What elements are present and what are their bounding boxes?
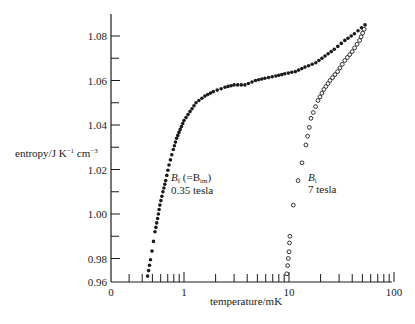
y-tick-label: 1.02 [88, 164, 107, 176]
data-point-open [336, 70, 340, 74]
x-axis-title: temperature/mK [210, 295, 282, 307]
data-point-filled [290, 71, 294, 75]
annotation-bf-field: 0.35 tesla [171, 184, 213, 196]
data-point-filled [167, 163, 171, 167]
annotation-bf: Bf (=Bim) [171, 171, 211, 185]
data-point-filled [270, 75, 274, 79]
data-point-filled [260, 77, 264, 81]
data-point-filled [148, 263, 152, 267]
data-point-open [288, 234, 292, 238]
data-point-filled [219, 87, 223, 91]
data-point-open [353, 46, 357, 50]
data-point-open [304, 143, 308, 147]
data-point-filled [157, 212, 161, 216]
data-point-filled [356, 29, 360, 33]
data-point-filled [303, 65, 307, 69]
data-point-open [359, 35, 363, 39]
data-point-filled [146, 274, 150, 278]
data-point-filled [323, 54, 327, 58]
x-tick-label: 1 [181, 286, 187, 298]
data-point-filled [149, 258, 153, 262]
data-point-open [362, 27, 366, 31]
data-point-open [355, 42, 359, 46]
data-point-open [286, 257, 290, 261]
data-point-filled [163, 183, 167, 187]
data-point-filled [267, 76, 271, 80]
data-point-filled [263, 77, 267, 81]
data-point-open [316, 99, 320, 103]
data-point-filled [310, 62, 314, 66]
data-point-filled [240, 83, 244, 87]
data-point-filled [353, 32, 357, 36]
data-point-filled [320, 56, 324, 60]
data-point-filled [250, 80, 254, 84]
data-point-filled [155, 221, 159, 225]
data-point-filled [215, 88, 219, 92]
data-point-open [288, 241, 292, 245]
data-point-open [318, 95, 322, 99]
data-point-open [320, 91, 324, 95]
data-point-filled [186, 113, 190, 117]
data-point-filled [164, 179, 168, 183]
data-point-filled [349, 34, 353, 38]
data-point-filled [223, 85, 227, 89]
data-point-filled [194, 101, 198, 105]
data-point-filled [300, 67, 304, 71]
data-point-filled [147, 269, 151, 273]
data-point-filled [247, 82, 251, 86]
entropy-temperature-chart: 0.960.981.001.021.041.061.08 0110100 ent… [0, 0, 415, 324]
data-point-open [350, 50, 354, 54]
y-tick-label: 1.06 [88, 75, 108, 87]
data-point-open [287, 250, 291, 254]
y-tick-label: 0.96 [88, 276, 108, 288]
series-bi-7-tesla [285, 27, 366, 275]
data-point-open [307, 126, 311, 130]
data-point-filled [297, 68, 301, 72]
x-tick-label: 100 [386, 286, 403, 298]
data-point-filled [212, 90, 216, 94]
data-point-filled [287, 71, 291, 75]
data-point-filled [152, 240, 156, 244]
data-point-filled [333, 48, 337, 52]
data-point-filled [150, 249, 154, 253]
data-point-filled [173, 144, 177, 148]
data-point-filled [340, 42, 344, 46]
data-point-open [314, 105, 318, 109]
data-point-filled [154, 226, 158, 230]
data-point-filled [162, 186, 166, 190]
data-point-filled [157, 208, 161, 212]
data-point-filled [170, 153, 174, 157]
data-point-filled [257, 78, 261, 82]
data-point-open [311, 111, 315, 115]
data-point-filled [326, 52, 330, 56]
data-point-open [300, 161, 304, 165]
data-point-filled [160, 194, 164, 198]
data-point-filled [277, 74, 281, 78]
data-point-open [306, 134, 310, 138]
data-point-filled [254, 79, 258, 83]
data-point-filled [346, 36, 350, 40]
data-point-filled [197, 99, 201, 103]
data-point-filled [200, 97, 204, 101]
data-point-open [309, 116, 313, 120]
axes: 0.960.981.001.021.041.061.08 0110100 [88, 14, 403, 298]
data-point-open [340, 62, 344, 66]
y-axis-title: entropy/J K−1 cm−3 [15, 147, 98, 159]
data-point-filled [294, 70, 298, 74]
data-point-filled [314, 61, 318, 65]
data-point-filled [174, 140, 178, 144]
data-point-open [296, 179, 300, 183]
data-point-filled [232, 83, 236, 87]
data-point-filled [329, 50, 333, 54]
y-tick-label: 0.98 [88, 253, 108, 265]
y-ticks: 0.960.981.001.021.041.061.08 [88, 30, 120, 288]
data-point-open [338, 66, 342, 70]
data-point-open [286, 264, 290, 268]
data-point-open [291, 203, 295, 207]
data-point-filled [243, 83, 247, 87]
data-point-filled [192, 104, 196, 108]
data-point-filled [161, 190, 165, 194]
annotation-bi-field: 7 tesla [308, 183, 337, 195]
x-tick-label: 0 [108, 286, 114, 298]
data-point-filled [172, 148, 176, 152]
